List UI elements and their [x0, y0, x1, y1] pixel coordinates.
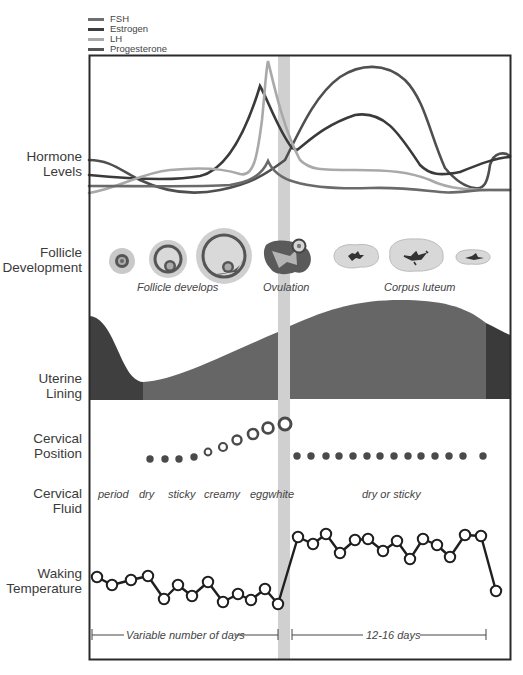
- ovulation-follicle-icon: [264, 240, 311, 275]
- fluid-label-sticky: sticky: [168, 488, 196, 500]
- luteal-duration-label: 12-16 days: [366, 629, 420, 641]
- follicle-large-icon: [196, 228, 252, 284]
- fluid-label-eggwhite: eggwhite: [250, 488, 294, 500]
- ovulation-label: Ovulation: [263, 281, 309, 293]
- waking-temperature-chart: [92, 529, 501, 609]
- cycle-chart: [0, 0, 523, 675]
- fsh-curve: [89, 161, 510, 193]
- fluid-label-creamy: creamy: [204, 488, 240, 500]
- corpus-luteum-label: Corpus luteum: [384, 281, 456, 293]
- follicle-development-graphics: [109, 228, 490, 284]
- cervical-position-dots: [146, 418, 486, 463]
- hormone-curves: [89, 61, 510, 193]
- follicle-small-icon: [109, 248, 135, 274]
- fluid-label-dry: dry: [139, 488, 154, 500]
- follicle-develops-label: Follicle develops: [137, 281, 218, 293]
- follicular-duration-label: Variable number of days: [126, 629, 245, 641]
- fluid-label-dry-or-sticky: dry or sticky: [362, 488, 421, 500]
- corpus-luteum-icon: [334, 239, 490, 271]
- menstrual-cycle-diagram: FSH Estrogen LH Progesterone Hormone Lev…: [0, 0, 523, 675]
- fluid-label-period: period: [98, 488, 129, 500]
- follicle-medium-icon: [149, 240, 187, 278]
- uterine-lining-area: [89, 300, 510, 400]
